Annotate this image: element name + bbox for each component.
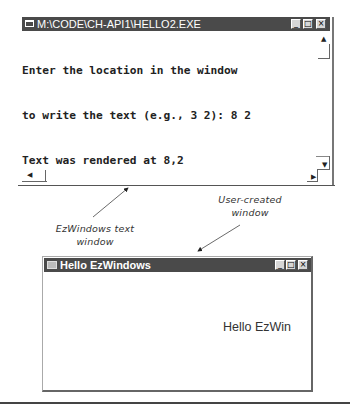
user-window-title: Hello EzWindows: [60, 258, 151, 272]
annotation-user-window-line1: User-created: [195, 193, 305, 206]
maximize-button[interactable]: □: [286, 260, 296, 270]
window-icon: [47, 261, 57, 269]
annotation-text-window-line2: window: [40, 235, 150, 248]
close-button[interactable]: ×: [298, 260, 308, 270]
annotation-user-window-line2: window: [195, 206, 305, 219]
page-divider: [0, 402, 350, 404]
minimize-icon: _: [278, 260, 282, 269]
minimize-button[interactable]: _: [275, 260, 285, 270]
arrow-to-text-window: [93, 188, 128, 217]
annotation-text-window-line1: EzWindows text: [40, 222, 150, 235]
annotation-user-window: User-created window: [195, 193, 305, 219]
close-icon: ×: [300, 260, 307, 269]
user-window-content-text: Hello EzWin: [223, 320, 291, 334]
maximize-icon: □: [287, 260, 295, 269]
user-window-titlebar[interactable]: Hello EzWindows _ □ ×: [44, 258, 311, 272]
annotation-text-window: EzWindows text window: [40, 222, 150, 248]
arrow-to-user-window: [198, 225, 240, 251]
